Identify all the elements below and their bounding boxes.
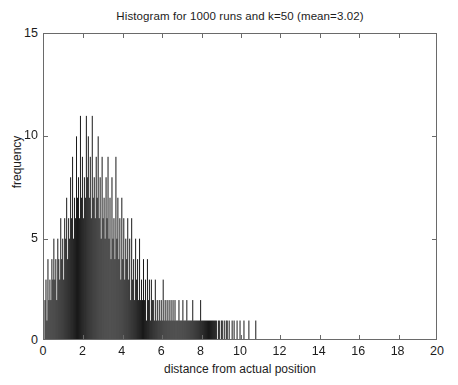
y-tick-mark-right: [432, 239, 436, 240]
x-tick-mark-top: [280, 34, 281, 38]
x-tick-label: 10: [233, 344, 247, 358]
x-tick-label: 6: [158, 344, 165, 358]
y-tick-label: 15: [24, 26, 38, 40]
x-tick-mark-top: [202, 34, 203, 38]
y-tick-mark-right: [432, 136, 436, 137]
x-tick-mark: [320, 335, 321, 339]
x-tick-mark: [399, 335, 400, 339]
histogram-bars: [44, 34, 437, 340]
x-tick-label: 20: [430, 344, 444, 358]
x-tick-mark: [123, 335, 124, 339]
x-tick-mark: [359, 335, 360, 339]
y-tick-label: 5: [31, 231, 38, 245]
x-tick-label: 12: [272, 344, 286, 358]
x-tick-mark: [241, 335, 242, 339]
y-tick-mark: [44, 136, 48, 137]
x-tick-mark-top: [162, 34, 163, 38]
x-tick-mark: [83, 335, 84, 339]
plot-area: [43, 33, 437, 340]
x-tick-mark-top: [123, 34, 124, 38]
x-tick-label: 8: [197, 344, 204, 358]
x-tick-label: 18: [391, 344, 405, 358]
x-tick-mark-top: [83, 34, 84, 38]
x-axis-label: distance from actual position: [43, 362, 437, 376]
x-tick-label: 0: [40, 344, 47, 358]
y-axis-label: frequency: [10, 117, 24, 207]
x-tick-mark: [202, 335, 203, 339]
x-tick-mark: [280, 335, 281, 339]
x-tick-label: 14: [312, 344, 326, 358]
y-tick-label: 0: [31, 333, 38, 347]
x-tick-mark-top: [359, 34, 360, 38]
x-tick-mark-top: [241, 34, 242, 38]
x-tick-label: 2: [79, 344, 86, 358]
x-tick-mark: [162, 335, 163, 339]
x-tick-mark-top: [399, 34, 400, 38]
chart-title: Histogram for 1000 runs and k=50 (mean=3…: [43, 10, 437, 22]
y-tick-label: 10: [24, 128, 38, 142]
y-tick-mark: [44, 239, 48, 240]
x-tick-label: 4: [118, 344, 125, 358]
figure-canvas: Histogram for 1000 runs and k=50 (mean=3…: [0, 0, 458, 385]
x-tick-mark-top: [320, 34, 321, 38]
x-tick-label: 16: [351, 344, 365, 358]
